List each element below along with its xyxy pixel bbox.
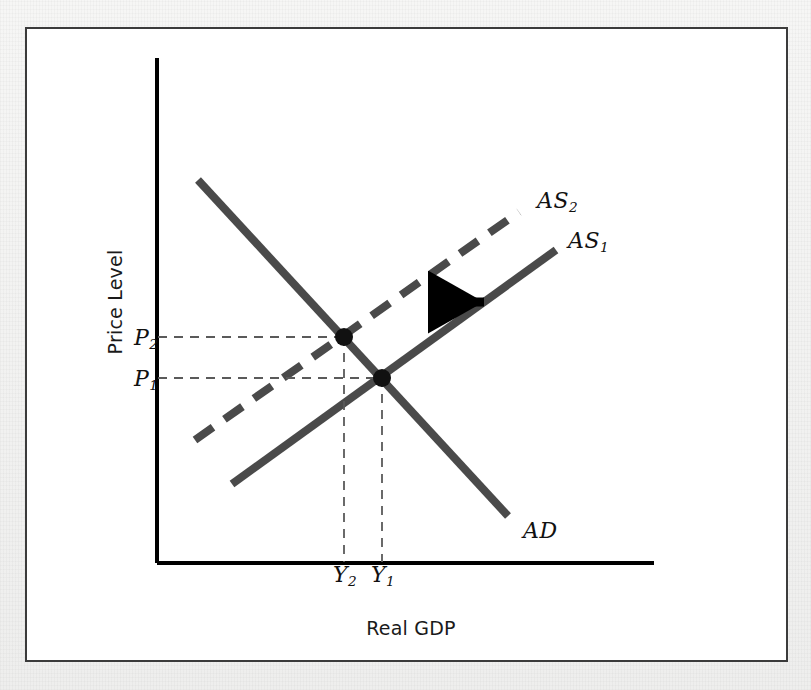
y-tick-label-p1-sub: 1 [149, 377, 158, 393]
curve-label-as2-base: AS [537, 188, 569, 213]
x-tick-label-y1-base: Y [371, 562, 386, 587]
x-axis-title: Real GDP [366, 617, 455, 639]
y-tick-label-p2: P2 [134, 325, 158, 352]
figure-page: Price Level Real GDP AS2 AS1 AD P2 P1 Y2… [0, 0, 811, 690]
x-tick-label-y2-base: Y [333, 562, 348, 587]
x-tick-label-y2-sub: 2 [348, 573, 357, 589]
y-tick-label-p1-base: P [134, 366, 149, 391]
curve-label-as2-sub: 2 [569, 199, 578, 215]
y-tick-label-p1: P1 [134, 366, 158, 393]
curve-label-as1-sub: 1 [600, 239, 609, 255]
curve-label-ad-base: AD [523, 518, 558, 543]
curve-label-as2: AS2 [537, 188, 578, 215]
y-tick-label-p2-base: P [134, 325, 149, 350]
x-tick-label-y2: Y2 [333, 562, 357, 589]
curve-label-ad: AD [523, 518, 558, 543]
x-tick-label-y1: Y1 [371, 562, 395, 589]
y-axis-title: Price Level [104, 250, 126, 355]
x-tick-label-y1-sub: 1 [386, 573, 395, 589]
curve-label-as1-base: AS [568, 228, 600, 253]
y-tick-label-p2-sub: 2 [149, 336, 158, 352]
curve-label-as1: AS1 [568, 228, 609, 255]
